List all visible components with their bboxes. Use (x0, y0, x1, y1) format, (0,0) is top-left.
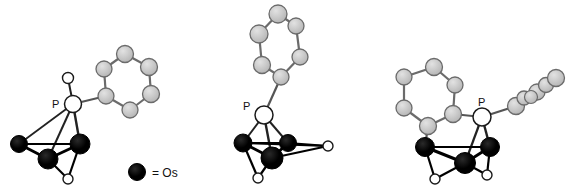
legend: = Os (129, 164, 178, 181)
phosphorus-label-middle: P (243, 100, 250, 112)
osmium-atom (234, 134, 252, 152)
phosphorus-atom (65, 96, 82, 113)
figure-canvas: P (0, 0, 576, 189)
carbon-atom (288, 18, 304, 34)
carbon-atom (420, 118, 437, 135)
carbon-atom (525, 91, 538, 104)
carbon-atom (250, 25, 268, 43)
carbon-atoms-right-upright (396, 59, 463, 135)
carbon-atom (141, 59, 158, 76)
phosphorus-atom (255, 106, 273, 124)
hydride-atom (63, 73, 74, 84)
legend-label: = Os (152, 166, 178, 180)
carbon-atom (143, 86, 160, 103)
carbon-atom (254, 57, 271, 74)
bond-group-left-core (19, 78, 106, 159)
osmium-atom (261, 147, 283, 169)
carbon-atom (117, 46, 134, 63)
carbon-atom (396, 100, 412, 116)
carbon-atom (396, 69, 412, 85)
osmium-atom (280, 135, 297, 152)
carbon-atoms-right-edge (508, 70, 565, 115)
osmium-atom (416, 138, 435, 157)
osmium-atom (481, 138, 500, 157)
phosphorus-label-right: P (478, 96, 485, 108)
molecular-structure-figure: P (0, 0, 576, 189)
carbon-atom (96, 61, 112, 77)
carbon-atom (98, 88, 114, 104)
phosphorus-label-left: P (52, 98, 59, 110)
carbon-atom (269, 5, 287, 23)
osmium-atom (38, 149, 58, 169)
structure-right: P (396, 59, 565, 185)
osmium-atom (455, 153, 476, 174)
osmium-marker-icon (129, 164, 146, 181)
carbon-atom (273, 69, 289, 85)
hydride-atom (253, 173, 263, 183)
hydride-atom (482, 170, 492, 180)
carbon-atom (292, 49, 308, 65)
hydride-atom (323, 141, 333, 151)
phosphorus-atom (473, 108, 491, 126)
osmium-atom (11, 136, 28, 153)
hydride-atom (430, 174, 440, 184)
structure-middle: P (234, 5, 333, 183)
carbon-atom (122, 102, 138, 118)
carbon-atom (426, 59, 443, 76)
carbon-atom (548, 70, 565, 87)
osmium-atoms-left (11, 134, 91, 169)
carbon-atom (447, 77, 463, 93)
osmium-atoms-middle (234, 134, 297, 169)
hydride-atom (63, 174, 73, 184)
osmium-atom (70, 134, 90, 154)
carbon-atom (445, 106, 462, 123)
